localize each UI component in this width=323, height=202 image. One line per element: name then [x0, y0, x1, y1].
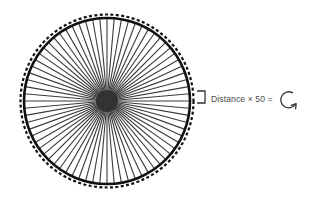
distance-equation-label: Distance × 50 =	[211, 94, 273, 104]
wheel-diagram	[0, 0, 323, 202]
rotate-clockwise-icon	[281, 92, 296, 109]
wheel-hub	[96, 90, 118, 112]
bracket-icon	[197, 91, 205, 103]
